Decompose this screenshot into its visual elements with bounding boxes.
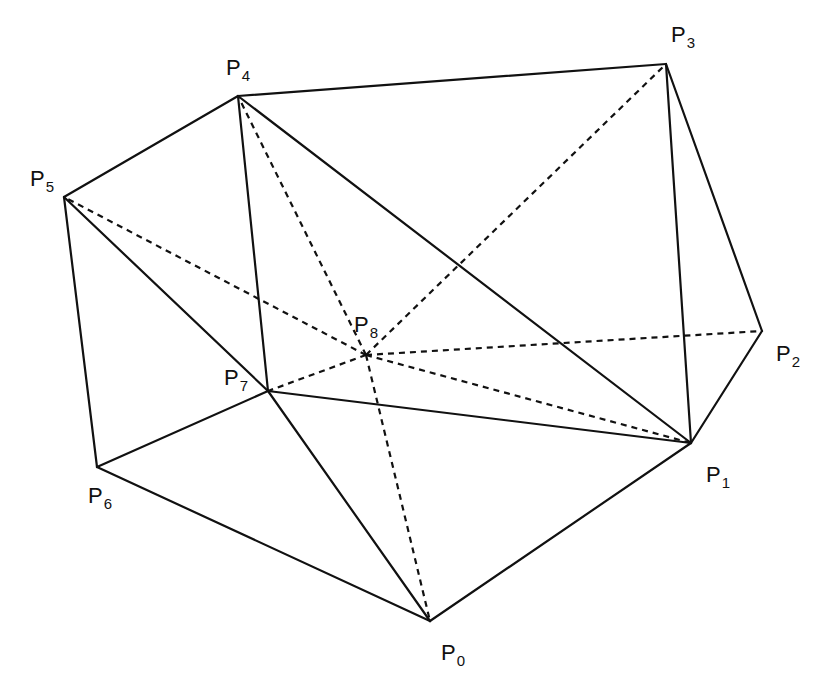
solid-edge-p0-p6 xyxy=(97,467,430,621)
solid-edge-p5-p4 xyxy=(64,96,238,197)
dashed-edge-p8-p3 xyxy=(366,64,666,355)
solid-edge-p6-p5 xyxy=(64,197,97,467)
point-label-p3: P3 xyxy=(671,22,695,51)
solid-edge-p1-p0 xyxy=(430,443,691,621)
dashed-edges xyxy=(64,64,762,621)
point-label-p0: P0 xyxy=(441,640,465,669)
point-label-p8: P8 xyxy=(354,312,378,341)
point-label-p4: P4 xyxy=(226,55,250,84)
dashed-edge-p8-p4 xyxy=(238,96,366,355)
point-label-p2: P2 xyxy=(776,341,800,370)
solid-edge-p2-p1 xyxy=(691,331,762,443)
solid-edge-p4-p7 xyxy=(238,96,268,391)
solid-edge-p4-p3 xyxy=(238,64,666,96)
point-label-p6: P6 xyxy=(88,483,112,512)
solid-edge-p7-p1 xyxy=(268,391,691,443)
dashed-edge-p8-p2 xyxy=(366,331,762,355)
point-label-p1: P1 xyxy=(706,462,730,491)
solid-edge-p5-p7 xyxy=(64,197,268,391)
solid-edges xyxy=(64,64,762,621)
dashed-edge-p8-p5 xyxy=(64,197,366,355)
solid-edge-p4-p1 xyxy=(238,96,691,443)
dashed-edge-p8-p0 xyxy=(366,355,430,621)
dashed-edge-p8-p7 xyxy=(268,355,366,391)
solid-edge-p7-p0 xyxy=(268,391,430,621)
solid-edge-p7-p6 xyxy=(97,391,268,467)
dashed-edge-p8-p1 xyxy=(366,355,691,443)
point-label-p5: P5 xyxy=(30,166,54,195)
triangulation-diagram: P0P1P2P3P4P5P6P7P8 xyxy=(0,0,832,690)
